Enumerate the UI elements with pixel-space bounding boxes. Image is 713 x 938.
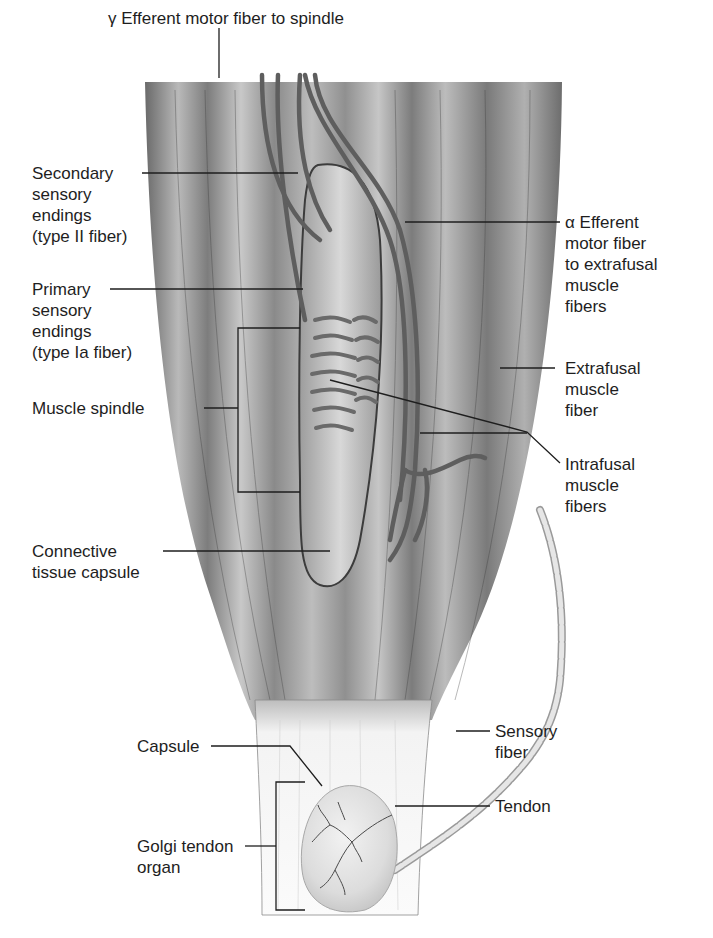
label-extrafusal-muscle-fiber: Extrafusal muscle fiber: [565, 358, 641, 421]
label-intrafusal-muscle-fibers: Intrafusal muscle fibers: [565, 454, 635, 517]
label-secondary-sensory-endings: Secondary sensory endings (type II fiber…: [32, 163, 127, 247]
label-tendon: Tendon: [495, 796, 551, 817]
label-muscle-spindle: Muscle spindle: [32, 398, 144, 419]
label-connective-tissue-capsule: Connective tissue capsule: [32, 541, 140, 583]
label-alpha-efferent: α Efferent motor fiber to extrafusal mus…: [565, 212, 658, 317]
label-golgi-tendon-organ: Golgi tendon organ: [137, 836, 233, 878]
label-gamma-efferent: γ Efferent motor fiber to spindle: [108, 8, 344, 29]
label-sensory-fiber: Sensory fiber: [495, 721, 557, 763]
label-primary-sensory-endings: Primary sensory endings (type Ia fiber): [32, 279, 132, 363]
label-capsule: Capsule: [137, 736, 199, 757]
